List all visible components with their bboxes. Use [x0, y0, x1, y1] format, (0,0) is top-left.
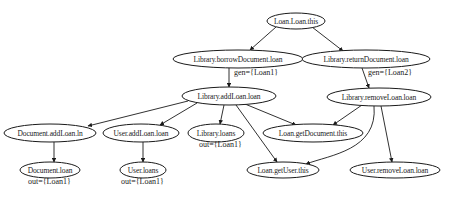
node-label-getuser: Loan.getUser.this: [257, 166, 308, 175]
node-annotation-out: out={Loan1}: [121, 177, 164, 186]
node-label-return: Library.returnDocument.loan: [323, 55, 408, 64]
node-label-user_addloan: User.addLoan.loan: [114, 129, 169, 138]
node-label-loan_this: Loan.Loan.this: [274, 17, 318, 26]
node-label-user_removeloan: User.removeLoan.loan: [362, 166, 428, 175]
edge-addloan-to-doc_addloan: [88, 101, 188, 126]
edge-label-gen: gen={Loan2}: [368, 68, 412, 77]
edge-loan_this-to-return: [312, 27, 343, 51]
edge-loan_this-to-borrow: [250, 27, 276, 50]
node-label-lib_loans: Library.loans: [197, 129, 235, 138]
edge-removeloan-to-getdoc: [333, 105, 362, 125]
node-annotation-out: out={Loan1}: [199, 140, 242, 149]
edge-removeloan-to-user_removeloan: [381, 106, 392, 162]
node-label-user_loans: User.loans: [128, 166, 158, 175]
node-label-doc_addloan: Document.addLoan.ln: [17, 129, 82, 138]
edge-label-gen: gen={Loan1}: [234, 68, 278, 77]
edge-addloan-to-getdoc: [245, 104, 296, 125]
node-label-doc_loan: Document.loan: [28, 166, 73, 175]
node-label-getdoc: Loan.getDocument.this: [279, 129, 347, 138]
node-annotation-out: out={Loan1}: [28, 177, 71, 186]
node-label-removeloan: Library.removeLoan.loan: [342, 93, 416, 102]
edge-addloan-to-lib_loans: [220, 105, 224, 124]
node-label-borrow: Library.borrowDocument.loan: [194, 55, 283, 64]
node-label-addloan: Library.addLoan.loan: [198, 92, 261, 101]
